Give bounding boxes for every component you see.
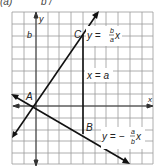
x-axis-label: x <box>147 95 153 104</box>
eq-prefix: y = <box>86 30 101 41</box>
coordinate-diagram: y x b A B C y = b a x x = a y = − a b x <box>0 0 164 168</box>
equation-y-neg-a-over-b-x: y = − a b x <box>101 127 145 149</box>
point-b-label: B <box>86 122 93 133</box>
equation-y-b-over-a-x: y = b a x <box>86 26 122 46</box>
y-tick-label-b: b <box>27 30 32 40</box>
eq-var: x <box>135 131 142 142</box>
eq-prefix: y = − <box>101 131 124 142</box>
eq-var: x <box>114 30 121 41</box>
svg-text:x = a: x = a <box>86 70 109 81</box>
y-axis-label: y <box>38 14 44 24</box>
equation-x-equals-a: x = a <box>85 68 113 82</box>
arrowhead-icon <box>12 131 18 138</box>
eq-denominator: a <box>110 36 114 43</box>
point-c-label: C <box>74 29 82 40</box>
eq-denominator: b <box>131 138 135 145</box>
eq-numerator: a <box>131 128 135 135</box>
point-a-label: A <box>25 91 33 102</box>
eq-numerator: b <box>110 27 114 34</box>
